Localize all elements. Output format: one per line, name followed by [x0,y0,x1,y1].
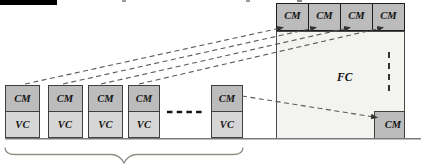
connector-stack1-to-topcm1 [25,28,283,85]
cm-vc-stack-3: CM VC [88,85,123,138]
top-cm-box-2: CM [309,4,341,30]
cm-box: CM [48,85,83,112]
vc-box: VC [5,111,40,139]
vc-box: VC [128,111,160,139]
top-cm-box-1: CM [277,4,309,30]
cm-vc-stack-2: CM VC [48,85,83,138]
top-cm-row: CM CM CM CM [276,3,405,31]
crop-artifact [246,0,250,2]
vc-box: VC [211,111,243,139]
fc-label: FC [337,71,353,83]
top-cm-box-4: CM [373,4,404,30]
cm-vc-stack-1: CM VC [5,85,40,138]
cm-box: CM [88,85,123,112]
cm-box: CM [211,85,243,112]
cm-box: CM [128,85,160,112]
vc-box: VC [48,111,83,139]
crop-artifact [297,0,302,2]
diagram-canvas: CM VC CM VC CM VC CM VC CM VC CM CM CM C… [0,0,424,168]
vc-box: VC [88,111,123,139]
cm-vc-stack-5: CM VC [211,85,243,138]
top-left-black-bar [0,0,57,5]
cm-box: CM [5,85,40,112]
brace [5,148,243,164]
top-cm-box-3: CM [341,4,373,30]
cm-vc-stack-4: CM VC [128,85,160,138]
corner-cm-box: CM [374,111,405,139]
crop-artifact [122,0,126,2]
